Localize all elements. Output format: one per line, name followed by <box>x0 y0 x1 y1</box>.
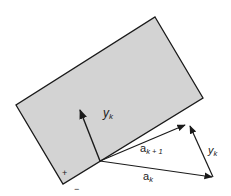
label-ak-plus-1: ak + 1 <box>140 142 163 156</box>
half-space-rectangle <box>16 17 203 184</box>
label-yk-right: yk <box>207 144 219 158</box>
diagram-canvas: yk ak + 1 ak yk + − <box>0 0 231 196</box>
label-ak: ak <box>143 170 154 184</box>
plus-sign: + <box>62 168 67 178</box>
vector-ak-arrow <box>100 161 212 177</box>
minus-sign: − <box>74 184 79 194</box>
